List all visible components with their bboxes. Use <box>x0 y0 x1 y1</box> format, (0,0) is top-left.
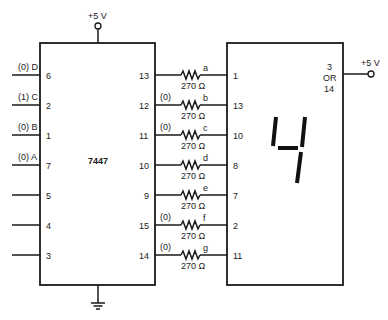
pin-label: 1 <box>46 131 51 141</box>
resistor-value: 270 Ω <box>181 81 206 91</box>
decoder-vcc: +5 V <box>88 11 107 43</box>
pin-label: 8 <box>233 161 238 171</box>
segment-label: e <box>203 183 208 193</box>
pin-label: 13 <box>233 101 243 111</box>
anode-pin-label: 3 <box>327 62 332 72</box>
display-vcc-label: +5 V <box>361 58 380 68</box>
pin-label: 11 <box>233 251 242 261</box>
pin-label: 1 <box>233 71 238 81</box>
state-label: (0) <box>160 212 171 222</box>
input-c-label: (1) C <box>18 92 39 102</box>
anode-pin-or: OR <box>323 73 337 83</box>
segment-label: a <box>203 63 208 73</box>
resistor-value: 270 Ω <box>181 111 206 121</box>
pin-label: 2 <box>46 101 51 111</box>
input-b-label: (0) B <box>18 122 38 132</box>
segment-label: d <box>203 153 208 163</box>
state-label: (0) <box>160 122 171 132</box>
pin-label: 5 <box>46 191 51 201</box>
pin-label: 7 <box>233 191 238 201</box>
segment-label: b <box>203 93 208 103</box>
pin-label: 12 <box>139 101 149 111</box>
pin-label: 10 <box>139 161 149 171</box>
resistor-value: 270 Ω <box>181 141 206 151</box>
pin-label: 9 <box>144 191 149 201</box>
pin-label: 7 <box>46 161 51 171</box>
input-a-label: (0) A <box>18 152 37 162</box>
input-d-label: (0) D <box>18 62 39 72</box>
pin-label: 14 <box>139 251 149 261</box>
resistor-value: 270 Ω <box>181 201 206 211</box>
state-label: (0) <box>160 242 171 252</box>
resistor-value: 270 Ω <box>181 261 206 271</box>
decoder-vcc-label: +5 V <box>88 11 107 21</box>
pin-label: 3 <box>46 251 51 261</box>
pin-label: 11 <box>139 131 148 141</box>
pin-label: 15 <box>139 221 149 231</box>
state-label: (0) <box>160 92 171 102</box>
pin-label: 10 <box>233 131 243 141</box>
pin-label: 2 <box>233 221 238 231</box>
pin-label: 6 <box>46 71 51 81</box>
output-row-e: 9 e 270 Ω 7 <box>144 183 238 211</box>
display-vcc: +5 V <box>343 58 380 77</box>
resistor-value: 270 Ω <box>181 231 206 241</box>
resistor-value: 270 Ω <box>181 171 206 181</box>
pin-label: 13 <box>139 71 149 81</box>
segment-label: c <box>203 123 208 133</box>
circuit-diagram: +5 V 7447 (0) D 6 (1) C 2 (0) B 1 (0) A … <box>0 0 388 320</box>
pin-label: 4 <box>46 221 51 231</box>
ground-symbol <box>91 285 105 309</box>
decoder-label: 7447 <box>88 156 108 166</box>
segment-label: f <box>203 213 206 223</box>
anode-pin-label-alt: 14 <box>324 84 334 94</box>
segment-label: g <box>203 243 208 253</box>
